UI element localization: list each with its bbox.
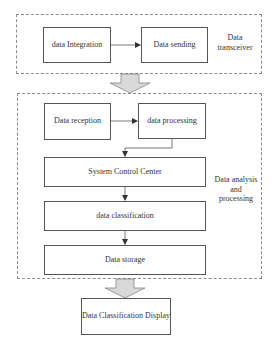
block-arrow-analysis-to-display <box>105 279 145 298</box>
connectors <box>0 0 272 348</box>
block-arrow-transceiver-to-analysis <box>110 74 150 93</box>
arrow-processing-to-control <box>125 139 172 156</box>
